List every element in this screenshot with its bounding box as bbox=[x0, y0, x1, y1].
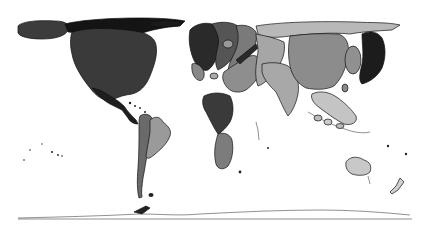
region-australia bbox=[346, 157, 371, 175]
island-speck bbox=[239, 171, 242, 174]
island-speck bbox=[144, 111, 146, 113]
island-speck bbox=[57, 154, 59, 156]
island-falklands bbox=[149, 193, 154, 197]
region-china-west bbox=[289, 34, 349, 90]
region-indonesia-patch bbox=[324, 119, 332, 125]
island-speck bbox=[129, 102, 131, 104]
island-speck bbox=[134, 105, 136, 107]
island-speck bbox=[29, 149, 31, 151]
region-indonesia-patch bbox=[314, 115, 322, 121]
region-africa-south bbox=[215, 133, 233, 169]
region-africa-north bbox=[203, 93, 233, 134]
island-speck bbox=[387, 145, 389, 147]
region-brazil bbox=[146, 117, 171, 158]
region-indonesia-patch bbox=[336, 124, 344, 129]
world-cartogram-map bbox=[0, 0, 430, 233]
region-china-east bbox=[360, 32, 385, 84]
map-canvas bbox=[0, 0, 430, 233]
region-antarctica-coast bbox=[18, 210, 410, 218]
region-europe-patch bbox=[223, 40, 233, 48]
island-speck bbox=[23, 159, 25, 161]
region-antarctic-peninsula bbox=[134, 206, 150, 214]
island-speck bbox=[61, 155, 63, 157]
region-new-zealand bbox=[390, 178, 404, 194]
region-tasmania-line bbox=[368, 176, 370, 184]
island-speck bbox=[51, 151, 53, 153]
island-speck bbox=[405, 153, 407, 155]
region-europe-patch bbox=[210, 73, 218, 79]
island-speck bbox=[139, 107, 141, 109]
region-taiwan bbox=[342, 84, 348, 92]
island-speck bbox=[267, 147, 269, 149]
region-alaska bbox=[18, 21, 68, 39]
region-korea-japan bbox=[345, 46, 361, 74]
island-speck bbox=[41, 143, 42, 144]
region-greenland bbox=[150, 21, 182, 27]
region-usa bbox=[71, 29, 157, 101]
region-east-africa-line bbox=[256, 122, 259, 140]
